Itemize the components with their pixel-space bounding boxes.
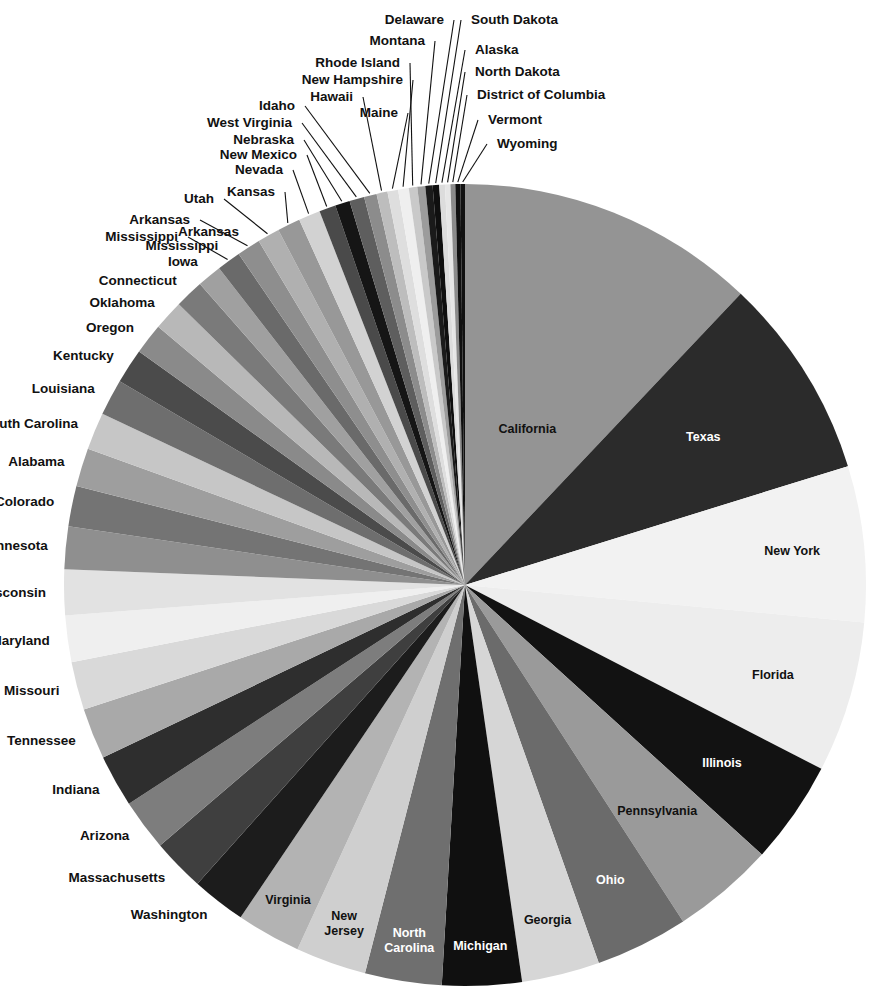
slice-label-nevada: Nevada bbox=[235, 162, 284, 177]
slice-label-arizona: Arizona bbox=[80, 828, 130, 843]
slice-label-north-dakota: North Dakota bbox=[475, 64, 560, 79]
slice-label-california: California bbox=[498, 422, 557, 436]
slice-label-missouri: Missouri bbox=[4, 683, 60, 698]
slice-label-illinois: Illinois bbox=[702, 756, 742, 770]
slice-label-new-york: New York bbox=[764, 544, 820, 558]
leader-line-maine bbox=[392, 113, 408, 189]
leader-line-montana bbox=[421, 41, 435, 184]
slice-label-kentucky: Kentucky bbox=[53, 348, 114, 363]
slice-label-south-carolina: South Carolina bbox=[0, 416, 79, 431]
slice-label-pennsylvania: Pennsylvania bbox=[617, 804, 698, 818]
pie-slices-group bbox=[64, 184, 866, 986]
slice-label-idaho: Idaho bbox=[259, 98, 295, 113]
slice-label-west-virginia: West Virginia bbox=[207, 115, 293, 130]
leader-line-south-dakota bbox=[436, 20, 461, 183]
leader-line-nebraska bbox=[304, 140, 342, 201]
slice-label-maine: Maine bbox=[360, 105, 399, 120]
slice-label-new-hampshire: New Hampshire bbox=[302, 72, 404, 87]
slice-label-hawaii: Hawaii bbox=[310, 89, 353, 104]
leader-line-new-mexico bbox=[307, 155, 327, 207]
pie-chart-svg: CaliforniaTexasNew YorkFloridaIllinoisPe… bbox=[0, 0, 870, 1000]
slice-label-district-of-columbia: District of Columbia bbox=[477, 87, 606, 102]
pie-chart-figure: CaliforniaTexasNew YorkFloridaIllinoisPe… bbox=[0, 0, 870, 1000]
leader-line-delaware bbox=[429, 20, 454, 184]
slice-label-rhode-island: Rhode Island bbox=[315, 55, 400, 70]
leader-line-kansas bbox=[285, 192, 288, 223]
slice-label-oklahoma: Oklahoma bbox=[90, 295, 156, 310]
slice-label-maryland: Maryland bbox=[0, 633, 50, 648]
slice-label-georgia: Georgia bbox=[524, 913, 572, 927]
slice-label-virginia: Virginia bbox=[265, 893, 312, 907]
slice-label-wyoming: Wyoming bbox=[497, 136, 558, 151]
slice-label-south-dakota: South Dakota bbox=[471, 12, 558, 27]
slice-label-alabama: Alabama bbox=[8, 454, 65, 469]
slice-label-delaware: Delaware bbox=[385, 12, 445, 27]
slice-label-alaska: Alaska bbox=[475, 42, 519, 57]
slice-label-tennessee: Tennessee bbox=[7, 733, 76, 748]
slice-label-wisconsin: Wisconsin bbox=[0, 585, 46, 600]
leader-line-wyoming bbox=[463, 144, 487, 182]
slice-label-arkansas: Arkansas bbox=[129, 212, 190, 227]
slice-label-florida: Florida bbox=[752, 668, 795, 682]
leader-line-west-virginia bbox=[302, 123, 356, 197]
slice-label-massachusetts: Massachusetts bbox=[68, 870, 165, 885]
slice-label-nebraska: Nebraska bbox=[233, 132, 294, 147]
slice-label-montana: Montana bbox=[370, 33, 426, 48]
leader-line-nevada bbox=[293, 170, 309, 214]
slice-label-connecticut: Connecticut bbox=[99, 273, 178, 288]
slice-label-utah: Utah bbox=[184, 191, 214, 206]
slice-label-iowa: Iowa bbox=[168, 254, 198, 269]
slice-label-indiana: Indiana bbox=[52, 782, 100, 797]
slice-label-kansas: Kansas bbox=[227, 184, 275, 199]
slice-label-vermont: Vermont bbox=[488, 112, 543, 127]
leader-line-rhode-island bbox=[410, 63, 413, 185]
slice-label-oregon: Oregon bbox=[86, 320, 134, 335]
slice-label-ohio: Ohio bbox=[596, 873, 625, 887]
leader-line-vermont bbox=[458, 120, 478, 182]
slice-label-colorado: Colorado bbox=[0, 494, 54, 509]
slice-label-texas: Texas bbox=[686, 430, 721, 444]
slice-label-michigan: Michigan bbox=[453, 939, 507, 953]
slice-label-louisiana: Louisiana bbox=[32, 381, 96, 396]
slice-label-mississippi: Mississippi bbox=[105, 229, 178, 244]
slice-label-washington: Washington bbox=[131, 907, 208, 922]
slice-label-new-mexico: New Mexico bbox=[220, 147, 297, 162]
slice-label-minnesota: Minnesota bbox=[0, 538, 48, 553]
